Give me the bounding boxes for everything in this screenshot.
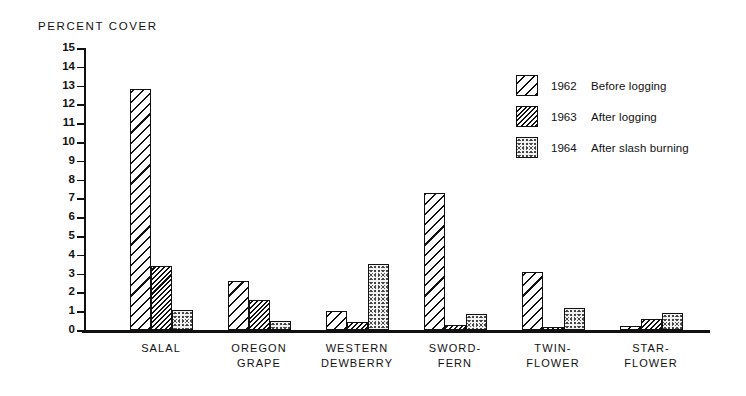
y-axis-tick-label: 9 — [69, 153, 75, 168]
bar — [130, 89, 151, 330]
y-axis-tick-label: 5 — [69, 228, 75, 243]
y-axis-tick-label: 13 — [62, 78, 75, 93]
bar — [445, 325, 466, 330]
bar — [326, 311, 347, 330]
y-axis-tick-label: 1 — [69, 303, 75, 318]
legend-year-label: 1964 — [551, 142, 591, 154]
y-axis-title: PERCENT COVER — [38, 20, 158, 32]
legend-year-label: 1962 — [551, 80, 591, 92]
bar — [564, 308, 585, 330]
legend-swatch — [516, 106, 538, 127]
legend-year-label: 1963 — [551, 111, 591, 123]
y-axis-tick-mark — [77, 104, 84, 106]
y-axis-tick-mark — [77, 274, 84, 276]
bar — [543, 327, 564, 330]
y-axis-tick-label: 4 — [69, 247, 75, 262]
bar — [424, 193, 445, 330]
y-axis-tick-label: 8 — [69, 172, 75, 187]
bar — [641, 319, 662, 330]
bar — [368, 264, 389, 330]
y-axis-tick-label: 15 — [62, 40, 75, 55]
y-axis-tick-mark — [77, 311, 84, 313]
legend-item: 1963After logging — [516, 101, 736, 132]
y-axis-tick-label: 11 — [63, 115, 75, 130]
x-axis-category-label: STAR- FLOWER — [596, 341, 706, 371]
y-axis-tick-mark — [77, 255, 84, 257]
bar — [172, 310, 193, 330]
y-axis-tick-label: 10 — [62, 134, 75, 149]
y-axis-tick-mark — [77, 198, 84, 200]
x-axis-category-label: SALAL — [106, 341, 216, 356]
y-axis-tick-mark — [77, 330, 84, 332]
bar — [620, 326, 641, 330]
y-axis-tick-mark — [77, 161, 84, 163]
chart-legend: 1962Before logging1963After logging1964A… — [516, 70, 736, 163]
y-axis-tick-label: 14 — [62, 59, 75, 74]
y-axis-tick-label: 6 — [69, 209, 75, 224]
bar — [270, 321, 291, 330]
percent-cover-bar-chart: PERCENT COVER 0123456789101112131415 SAL… — [0, 0, 746, 396]
y-axis-tick-label: 0 — [69, 322, 75, 337]
y-axis-tick-mark — [77, 123, 84, 125]
legend-swatch — [516, 75, 538, 96]
y-axis-tick-mark — [77, 67, 84, 69]
legend-description-label: After logging — [591, 111, 657, 123]
y-axis-tick-mark — [77, 86, 84, 88]
x-axis-category-label: OREGON GRAPE — [204, 341, 314, 371]
bar — [228, 281, 249, 330]
legend-swatch — [516, 137, 538, 158]
y-axis-tick-mark — [77, 142, 84, 144]
bar — [522, 272, 543, 330]
y-axis-tick-mark — [77, 292, 84, 294]
bar — [662, 313, 683, 330]
y-axis-tick-label: 12 — [62, 96, 75, 111]
y-axis-tick-label: 3 — [69, 266, 75, 281]
bar — [249, 300, 270, 330]
y-axis-tick-mark — [77, 180, 84, 182]
y-axis-tick-mark — [77, 236, 84, 238]
x-axis-line — [82, 330, 710, 333]
y-axis-line — [84, 48, 86, 330]
y-axis-tick-label: 7 — [69, 190, 75, 205]
legend-description-label: After slash burning — [591, 142, 689, 154]
legend-item: 1964After slash burning — [516, 132, 736, 163]
y-axis-tick-label: 2 — [69, 284, 75, 299]
x-axis-category-label: WESTERN DEWBERRY — [302, 341, 412, 371]
x-axis-category-label: SWORD- FERN — [400, 341, 510, 371]
legend-description-label: Before logging — [591, 80, 667, 92]
y-axis-tick-mark — [77, 217, 84, 219]
bar — [151, 266, 172, 330]
x-axis-category-label: TWIN- FLOWER — [498, 341, 608, 371]
y-axis-tick-mark — [77, 48, 84, 50]
legend-item: 1962Before logging — [516, 70, 736, 101]
bar — [466, 314, 487, 330]
bar — [347, 322, 368, 330]
